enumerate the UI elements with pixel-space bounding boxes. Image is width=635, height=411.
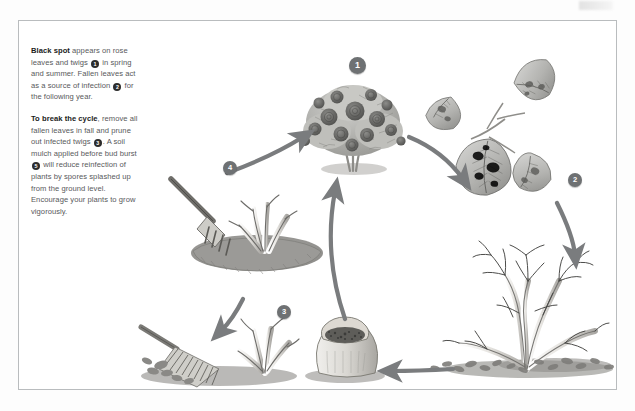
scan-artifact	[579, 1, 613, 10]
illustration-mulch-sack	[305, 317, 385, 383]
illustration-infected-rose-leaves	[423, 56, 560, 199]
illustration-rake-and-pruned-twigs	[141, 317, 299, 387]
marker-badge-1: 1	[349, 57, 366, 74]
illustration-garden-fork-cleared-bed	[171, 179, 323, 274]
arrow-bush-to-leaves	[409, 137, 463, 179]
figure-canvas: Black spot appears on rose leaves and tw…	[0, 0, 635, 411]
arrow-mulch-to-bush	[331, 191, 345, 319]
arrow-bare-bush-to-mulch	[391, 369, 453, 371]
arrow-fork-to-bush	[227, 137, 303, 173]
illustration-flowering-rose-bush	[300, 85, 406, 175]
marker-badge-3: 3	[277, 305, 291, 319]
arrow-twigs-to-fork	[221, 299, 243, 331]
cycle-artwork: 1 2 3 4	[19, 21, 618, 391]
marker-badge-4: 4	[223, 161, 237, 175]
figure-panel: Black spot appears on rose leaves and tw…	[18, 20, 617, 390]
illustration-bare-rose-bush-fallen-leaves	[430, 241, 614, 378]
arrow-leaves-to-bare-bush	[557, 203, 575, 255]
marker-badge-2: 2	[568, 173, 582, 187]
